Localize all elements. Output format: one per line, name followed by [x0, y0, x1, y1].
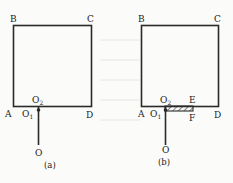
label-o2-b: O2 — [160, 95, 171, 106]
background-texture — [100, 40, 140, 120]
label-d-b: D — [214, 110, 221, 120]
label-b-b: B — [138, 14, 145, 24]
caption-a: (a) — [44, 160, 56, 170]
label-a-a: A — [4, 109, 12, 119]
caption-b: (b) — [158, 157, 170, 167]
diagram-canvas: B C A D O2 O1 O (a) B C A D O2 E O1 F O … — [0, 0, 233, 183]
label-o1-b: O1 — [150, 109, 161, 120]
label-a-b: A — [137, 109, 145, 119]
label-c-b: C — [214, 14, 221, 24]
figure-a: B C A D O2 O1 O (a) — [4, 14, 94, 170]
label-e-b: E — [189, 95, 196, 105]
label-c-a: C — [87, 14, 94, 24]
label-o1-a: O1 — [22, 109, 33, 120]
pivot-point-a — [37, 108, 41, 112]
hatched-strip-o2-e-f — [165, 106, 193, 111]
label-o2-a: O2 — [32, 95, 43, 106]
label-o-b: O — [162, 145, 169, 155]
diagram-stage: B C A D O2 O1 O (a) B C A D O2 E O1 F O … — [0, 0, 233, 183]
square-abcd-b — [142, 26, 219, 107]
label-b-a: B — [10, 14, 17, 24]
label-d-a: D — [86, 110, 93, 120]
figure-b: B C A D O2 E O1 F O (b) — [137, 14, 221, 167]
label-o-a: O — [35, 148, 42, 158]
pivot-point-b — [164, 108, 168, 112]
label-f-b: F — [189, 113, 195, 123]
square-abcd-a — [14, 26, 92, 107]
